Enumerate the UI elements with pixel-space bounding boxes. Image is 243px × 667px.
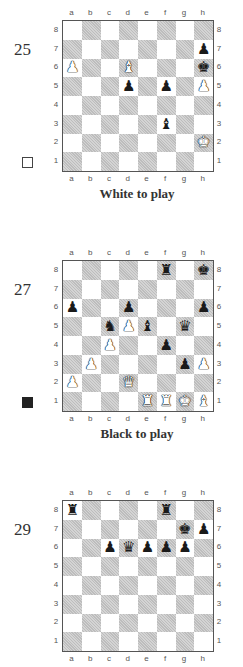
- square-e8[interactable]: [138, 261, 157, 280]
- square-a8[interactable]: [63, 21, 82, 40]
- square-a3[interactable]: [63, 115, 82, 134]
- square-e5[interactable]: [138, 77, 157, 96]
- black-king-icon[interactable]: ♚: [178, 522, 191, 537]
- square-d5[interactable]: ♟: [119, 77, 138, 96]
- black-pawn-icon[interactable]: ♟: [122, 79, 135, 94]
- square-g3[interactable]: [176, 595, 195, 614]
- square-h8[interactable]: [194, 501, 213, 520]
- square-f1[interactable]: [157, 632, 176, 651]
- square-c1[interactable]: [101, 632, 120, 651]
- square-g1[interactable]: ♚: [176, 392, 195, 411]
- square-g5[interactable]: [176, 557, 195, 576]
- square-e1[interactable]: [138, 632, 157, 651]
- black-rook-icon[interactable]: ♜: [66, 503, 79, 518]
- square-b2[interactable]: [82, 134, 101, 153]
- square-b4[interactable]: [82, 576, 101, 595]
- white-rook-icon[interactable]: ♜: [159, 394, 172, 409]
- square-d6[interactable]: ♝: [119, 59, 138, 78]
- square-d3[interactable]: [119, 355, 138, 374]
- square-f2[interactable]: [157, 374, 176, 393]
- square-b5[interactable]: [82, 317, 101, 336]
- square-e4[interactable]: [138, 336, 157, 355]
- white-pawn-icon[interactable]: ♟: [197, 79, 210, 94]
- black-pawn-icon[interactable]: ♟: [122, 300, 135, 315]
- white-pawn-icon[interactable]: ♟: [103, 338, 116, 353]
- square-h1[interactable]: [194, 152, 213, 171]
- black-rook-icon[interactable]: ♜: [159, 263, 172, 278]
- square-d1[interactable]: [119, 392, 138, 411]
- square-b8[interactable]: [82, 501, 101, 520]
- black-bishop-icon[interactable]: ♝: [159, 117, 172, 132]
- square-g5[interactable]: ♛: [176, 317, 195, 336]
- square-c2[interactable]: [101, 374, 120, 393]
- square-c6[interactable]: [101, 299, 120, 318]
- square-h4[interactable]: [194, 576, 213, 595]
- white-bishop-icon[interactable]: ♝: [197, 394, 210, 409]
- square-h7[interactable]: ♟: [194, 520, 213, 539]
- square-b4[interactable]: [82, 336, 101, 355]
- black-pawn-icon[interactable]: ♟: [66, 300, 79, 315]
- white-king-icon[interactable]: ♚: [197, 135, 210, 150]
- square-d1[interactable]: [119, 632, 138, 651]
- square-c1[interactable]: [101, 392, 120, 411]
- square-d2[interactable]: ♛: [119, 374, 138, 393]
- square-f4[interactable]: [157, 96, 176, 115]
- square-b6[interactable]: [82, 539, 101, 558]
- square-e7[interactable]: [138, 520, 157, 539]
- square-c2[interactable]: [101, 614, 120, 633]
- square-b8[interactable]: [82, 261, 101, 280]
- black-king-icon[interactable]: ♚: [197, 263, 210, 278]
- square-h1[interactable]: ♝: [194, 392, 213, 411]
- square-a6[interactable]: [63, 539, 82, 558]
- square-b3[interactable]: [82, 595, 101, 614]
- square-b1[interactable]: [82, 632, 101, 651]
- square-h4[interactable]: [194, 96, 213, 115]
- square-d4[interactable]: [119, 576, 138, 595]
- square-a7[interactable]: [63, 40, 82, 59]
- square-b6[interactable]: [82, 299, 101, 318]
- square-b5[interactable]: [82, 77, 101, 96]
- square-d3[interactable]: [119, 595, 138, 614]
- square-c8[interactable]: [101, 261, 120, 280]
- square-b1[interactable]: [82, 152, 101, 171]
- square-f5[interactable]: [157, 557, 176, 576]
- square-a7[interactable]: [63, 280, 82, 299]
- square-h2[interactable]: ♚: [194, 134, 213, 153]
- square-f7[interactable]: [157, 520, 176, 539]
- black-knight-icon[interactable]: ♞: [103, 319, 116, 334]
- white-queen-icon[interactable]: ♛: [122, 375, 135, 390]
- square-g4[interactable]: [176, 96, 195, 115]
- square-c3[interactable]: [101, 595, 120, 614]
- square-d1[interactable]: [119, 152, 138, 171]
- black-pawn-icon[interactable]: ♟: [159, 79, 172, 94]
- square-f7[interactable]: [157, 40, 176, 59]
- square-e6[interactable]: ♟: [138, 539, 157, 558]
- square-f6[interactable]: [157, 299, 176, 318]
- square-a5[interactable]: [63, 77, 82, 96]
- square-g7[interactable]: ♚: [176, 520, 195, 539]
- square-h5[interactable]: ♟: [194, 77, 213, 96]
- square-a6[interactable]: ♟: [63, 299, 82, 318]
- square-f3[interactable]: ♝: [157, 115, 176, 134]
- square-b4[interactable]: [82, 96, 101, 115]
- square-h3[interactable]: [194, 595, 213, 614]
- square-e3[interactable]: [138, 595, 157, 614]
- square-b7[interactable]: [82, 520, 101, 539]
- square-g8[interactable]: [176, 21, 195, 40]
- square-c4[interactable]: [101, 96, 120, 115]
- square-a4[interactable]: [63, 576, 82, 595]
- square-c6[interactable]: ♟: [101, 539, 120, 558]
- black-pawn-icon[interactable]: ♟: [103, 540, 116, 555]
- square-a3[interactable]: [63, 355, 82, 374]
- square-c6[interactable]: [101, 59, 120, 78]
- square-g7[interactable]: [176, 280, 195, 299]
- black-queen-icon[interactable]: ♛: [122, 540, 135, 555]
- square-h3[interactable]: ♟: [194, 355, 213, 374]
- square-a1[interactable]: [63, 632, 82, 651]
- square-b7[interactable]: [82, 40, 101, 59]
- square-g3[interactable]: [176, 115, 195, 134]
- square-g5[interactable]: [176, 77, 195, 96]
- white-pawn-icon[interactable]: ♟: [122, 319, 135, 334]
- square-a7[interactable]: [63, 520, 82, 539]
- square-g6[interactable]: [176, 59, 195, 78]
